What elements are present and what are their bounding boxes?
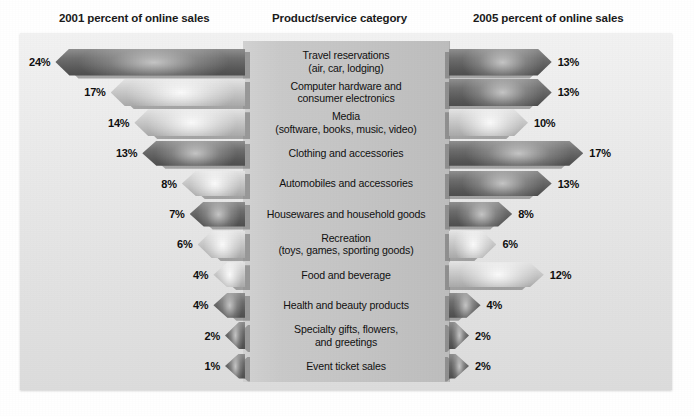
bar-value-2001: 17%	[84, 86, 105, 98]
bar-shape-2001	[182, 171, 245, 196]
category-label-line: Health and beauty products	[243, 299, 449, 312]
bar-shape-2001	[225, 322, 245, 349]
bar-shape-2001	[198, 231, 245, 258]
column-header-2005: 2005 percent of online sales	[473, 12, 624, 24]
category-label-line: Recreation	[243, 232, 449, 245]
bar-value-2005: 13%	[558, 86, 579, 98]
bar-shape-2005	[449, 49, 552, 76]
bar-shape-2001	[111, 79, 245, 106]
bar-shape-2005	[449, 262, 544, 287]
bar-2001[interactable]: 6%	[177, 231, 245, 258]
bar-2001[interactable]: 7%	[169, 202, 245, 227]
bar-value-2001: 2%	[205, 330, 221, 342]
infographic-figure: 2001 percent of online sales Product/ser…	[0, 0, 694, 416]
category-label-line: Automobiles and accessories	[243, 177, 449, 190]
bar-value-2005: 4%	[487, 299, 503, 311]
category-label: Specialty gifts, flowers,and greetings	[243, 323, 449, 348]
bar-2005[interactable]: 6%	[449, 231, 518, 258]
bar-2005[interactable]: 17%	[449, 141, 611, 166]
bar-2005[interactable]: 2%	[449, 322, 491, 349]
bar-shape-2005	[449, 79, 552, 106]
bar-value-2001: 6%	[177, 238, 193, 250]
bar-shape-2005	[449, 202, 512, 227]
category-label-line: Specialty gifts, flowers,	[243, 323, 449, 336]
bar-shape-2001	[134, 109, 245, 136]
bar-value-2005: 10%	[534, 117, 555, 129]
category-label-line: Computer hardware and	[243, 80, 449, 93]
bar-2005[interactable]: 4%	[449, 293, 502, 318]
bar-shape-2005	[449, 322, 469, 349]
bar-shape-2005	[449, 293, 481, 318]
bar-shape-2001	[213, 262, 245, 287]
bar-value-2001: 4%	[193, 299, 209, 311]
bar-value-2001: 1%	[205, 360, 221, 372]
category-label: Automobiles and accessories	[243, 177, 449, 190]
bar-value-2005: 13%	[558, 178, 579, 190]
category-label: Clothing and accessories	[243, 147, 449, 160]
bar-2005[interactable]: 8%	[449, 202, 534, 227]
bar-shape-2005	[449, 171, 552, 196]
bar-value-2001: 24%	[29, 56, 50, 68]
column-header-2001: 2001 percent of online sales	[59, 12, 210, 24]
bar-value-2001: 14%	[108, 117, 129, 129]
bar-shape-2005	[449, 141, 583, 166]
category-label-line: and greetings	[243, 336, 449, 349]
bar-shape-2001	[142, 141, 245, 166]
bar-2001[interactable]: 14%	[108, 109, 245, 136]
category-label-line: Housewares and household goods	[243, 208, 449, 221]
category-label-line: Travel reservations	[243, 49, 449, 62]
bar-value-2005: 6%	[502, 238, 518, 250]
bar-2005[interactable]: 13%	[449, 171, 579, 196]
bar-2001[interactable]: 1%	[205, 354, 246, 379]
category-label: Food and beverage	[243, 269, 449, 282]
bar-value-2005: 12%	[550, 269, 571, 281]
category-label: Event ticket sales	[243, 360, 449, 373]
bar-shape-2005	[449, 354, 469, 379]
bar-shape-2005	[449, 109, 528, 136]
bar-value-2005: 13%	[558, 56, 579, 68]
bar-value-2005: 2%	[475, 330, 491, 342]
column-header-category: Product/service category	[272, 12, 407, 24]
category-label-line: (air, car, lodging)	[243, 62, 449, 75]
category-label: Travel reservations(air, car, lodging)	[243, 49, 449, 74]
category-label-line: consumer electronics	[243, 92, 449, 105]
bar-value-2001: 8%	[161, 178, 177, 190]
bar-value-2001: 13%	[116, 147, 137, 159]
category-label-line: (software, books, music, video)	[243, 123, 449, 136]
category-label: Recreation(toys, games, sporting goods)	[243, 232, 449, 257]
category-label-line: Clothing and accessories	[243, 147, 449, 160]
bar-value-2001: 4%	[193, 269, 209, 281]
bar-2001[interactable]: 24%	[29, 49, 245, 76]
bar-2005[interactable]: 13%	[449, 49, 579, 76]
bar-2001[interactable]: 8%	[161, 171, 245, 196]
bar-value-2005: 17%	[589, 147, 610, 159]
bar-2001[interactable]: 2%	[205, 322, 246, 349]
bar-2001[interactable]: 13%	[116, 141, 245, 166]
bar-shape-2001	[225, 354, 245, 379]
category-label: Housewares and household goods	[243, 208, 449, 221]
bar-2005[interactable]: 10%	[449, 109, 555, 136]
category-label-line: Food and beverage	[243, 269, 449, 282]
bar-2005[interactable]: 13%	[449, 79, 579, 106]
bar-shape-2001	[190, 202, 245, 227]
category-label-line: (toys, games, sporting goods)	[243, 244, 449, 257]
bar-shape-2001	[55, 49, 245, 76]
bar-value-2005: 8%	[518, 208, 534, 220]
category-label: Computer hardware andconsumer electronic…	[243, 80, 449, 105]
bar-value-2001: 7%	[169, 208, 185, 220]
bar-2005[interactable]: 12%	[449, 262, 571, 287]
bar-value-2005: 2%	[475, 360, 491, 372]
bar-2005[interactable]: 2%	[449, 354, 491, 379]
bar-shape-2001	[213, 293, 245, 318]
bar-2001[interactable]: 4%	[193, 262, 245, 287]
category-label-line: Event ticket sales	[243, 360, 449, 373]
bar-shape-2005	[449, 231, 496, 258]
bar-2001[interactable]: 17%	[84, 79, 245, 106]
category-label: Media(software, books, music, video)	[243, 110, 449, 135]
bar-2001[interactable]: 4%	[193, 293, 245, 318]
category-label: Health and beauty products	[243, 299, 449, 312]
category-label-line: Media	[243, 110, 449, 123]
